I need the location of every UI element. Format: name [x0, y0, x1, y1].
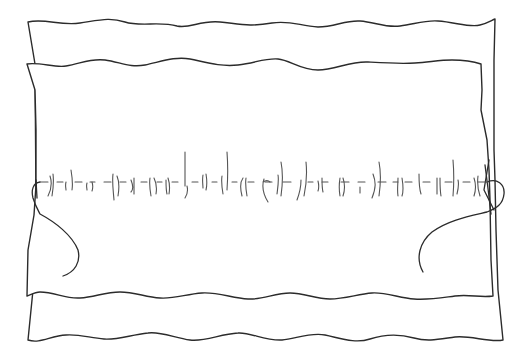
front-fabric-layer: [27, 58, 493, 299]
sewing-illustration: [0, 0, 527, 359]
